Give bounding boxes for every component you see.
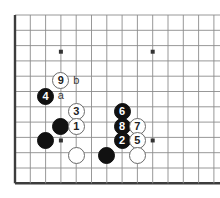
- stone-white-move-9: 9: [52, 72, 69, 89]
- stone-black-placed: [37, 132, 54, 149]
- stone-white-placed: [68, 147, 85, 164]
- stone-black-move-4: 4: [37, 88, 54, 105]
- point-label-b: b: [70, 75, 82, 86]
- stone-white-placed: [129, 147, 146, 164]
- stone-white-move-1: 1: [68, 118, 85, 135]
- stone-black-placed: [98, 147, 115, 164]
- go-board-diagram: 943618725ba: [0, 0, 220, 198]
- stone-layer: 943618725ba: [0, 0, 220, 198]
- stone-black-placed: [52, 118, 69, 135]
- point-label-a: a: [55, 90, 67, 101]
